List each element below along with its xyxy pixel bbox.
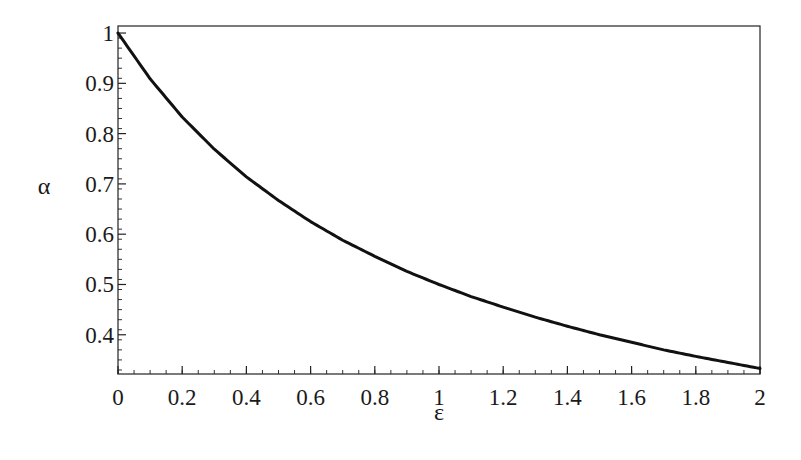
x-tick-label: 0.2 — [168, 385, 197, 410]
x-tick-label: 0.6 — [296, 385, 325, 410]
x-tick-label: 1.2 — [489, 385, 518, 410]
y-tick-label: 0.7 — [85, 172, 114, 197]
x-tick-label: 1.8 — [681, 385, 710, 410]
x-axis-label: ε — [434, 399, 444, 425]
x-tick-label: 2 — [754, 385, 766, 410]
y-tick-label: 0.4 — [85, 323, 114, 348]
x-tick-label: 1.4 — [553, 385, 582, 410]
x-tick-label: 0.8 — [360, 385, 389, 410]
y-tick-label: 0.9 — [85, 71, 114, 96]
x-tick-label: 0 — [112, 385, 124, 410]
y-axis-label: α — [38, 173, 51, 199]
y-tick-label: 0.5 — [85, 272, 114, 297]
y-tick-label: 0.6 — [85, 222, 114, 247]
chart: 00.20.40.60.811.21.41.61.82 0.40.50.60.7… — [0, 0, 801, 460]
y-tick-label: 1 — [103, 21, 115, 46]
x-tick-label: 1.6 — [617, 385, 646, 410]
x-tick-label: 0.4 — [232, 385, 261, 410]
y-tick-label: 0.8 — [85, 122, 114, 147]
